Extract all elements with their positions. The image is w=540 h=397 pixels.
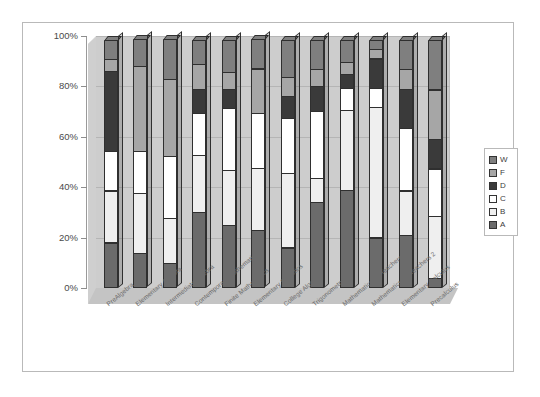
bar-segment-b[interactable] [222,170,236,225]
legend-swatch-w-icon [489,156,497,164]
legend-item-w[interactable]: W [489,153,514,166]
legend-item-c[interactable]: C [489,192,514,205]
legend-label: C [500,195,506,203]
legend-swatch-c-icon [489,195,497,203]
bar-segment-w[interactable] [428,40,442,90]
bar-segment-b[interactable] [310,178,324,203]
bar-segment-c[interactable] [222,108,236,171]
bar-segment-c[interactable] [251,113,265,168]
bar-side-face [324,32,329,288]
bar-segment-b[interactable] [340,110,354,191]
bar-side-face [206,32,211,288]
bar-segment-b[interactable] [104,191,118,244]
y-tick-mark [81,86,87,87]
bar-segment-f[interactable] [222,72,236,90]
bar-segment-f[interactable] [192,64,206,89]
bar-segment-w[interactable] [340,40,354,63]
bar-segment-d[interactable] [222,89,236,109]
stacked-bar[interactable] [281,41,295,288]
bar-side-face [118,32,123,288]
stacked-bar[interactable] [104,41,118,288]
y-tick-label: 100% [34,31,78,41]
bar-segment-d[interactable] [310,86,324,111]
stacked-bar[interactable] [340,41,354,288]
bar-segment-c[interactable] [399,128,413,191]
y-axis-line [86,36,87,289]
stacked-bar[interactable] [222,41,236,288]
legend-item-b[interactable]: B [489,205,514,218]
bar-segment-d[interactable] [428,139,442,169]
bar-segment-f[interactable] [163,79,177,157]
legend-swatch-b-icon [489,208,497,216]
bar-segment-b[interactable] [399,191,413,236]
y-tick-label: 80% [34,81,78,91]
bar-segment-b[interactable] [369,107,383,238]
bar-segment-d[interactable] [399,89,413,129]
bar-segment-w[interactable] [399,40,413,70]
y-tick-mark [81,137,87,138]
bar-segment-f[interactable] [281,77,295,97]
y-tick-mark [81,238,87,239]
bar-segment-d[interactable] [192,89,206,114]
bar-segment-c[interactable] [369,88,383,108]
bar-segment-d[interactable] [281,96,295,119]
y-tick-mark [81,187,87,188]
bar-side-face [295,32,300,288]
stacked-bar[interactable] [192,41,206,288]
bar-side-face [442,32,447,288]
legend-item-d[interactable]: D [489,179,514,192]
stacked-bar[interactable] [310,41,324,288]
stacked-bar[interactable] [369,41,383,288]
legend-swatch-d-icon [489,182,497,190]
bar-segment-w[interactable] [222,40,236,73]
bar-segment-d[interactable] [369,59,383,89]
bar-segment-w[interactable] [192,40,206,65]
legend-item-f[interactable]: F [489,166,514,179]
bar-segment-f[interactable] [399,69,413,89]
bar-segment-w[interactable] [133,39,147,67]
y-tick-mark [81,36,87,37]
bar-segment-c[interactable] [133,151,147,194]
bar-segment-c[interactable] [104,151,118,191]
bar-segment-a[interactable] [133,253,147,288]
legend-label: F [500,169,505,177]
bar-segment-c[interactable] [310,111,324,179]
bar-side-face [413,32,418,288]
bar-segment-w[interactable] [281,40,295,78]
bar-segment-c[interactable] [163,156,177,219]
bar-side-face [177,31,182,287]
bar-segment-a[interactable] [104,243,118,288]
bar-segment-d[interactable] [340,74,354,89]
bar-segment-f[interactable] [104,59,118,72]
stacked-bar[interactable] [133,40,147,288]
bar-segment-b[interactable] [281,173,295,249]
bar-segment-c[interactable] [428,169,442,217]
bar-segment-f[interactable] [428,90,442,140]
bar-segment-f[interactable] [133,66,147,152]
legend-label: B [500,208,505,216]
bar-segment-w[interactable] [251,39,265,69]
bar-segment-b[interactable] [163,218,177,263]
legend-item-a[interactable]: A [489,218,514,231]
y-tick-mark [81,288,87,289]
bar-segment-f[interactable] [340,62,354,75]
bar-side-face [354,32,359,288]
chart-page: 100%80%60%40%20%0% PreAlgebraElementary … [0,0,540,397]
bar-segment-f[interactable] [251,69,265,114]
y-tick-label: 60% [34,132,78,142]
bar-segment-b[interactable] [133,193,147,253]
legend-swatch-a-icon [489,221,497,229]
bar-segment-w[interactable] [163,39,177,79]
bar-segment-c[interactable] [192,113,206,156]
y-tick-label: 40% [34,182,78,192]
stacked-bar[interactable] [163,40,177,288]
bar-segment-f[interactable] [310,69,324,87]
bar-segment-c[interactable] [340,88,354,111]
bar-segment-a[interactable] [340,190,354,288]
bar-segment-w[interactable] [104,40,118,60]
bar-segment-d[interactable] [104,71,118,152]
bar-segment-b[interactable] [251,168,265,231]
bar-segment-w[interactable] [310,40,324,70]
bar-segment-b[interactable] [192,155,206,213]
bar-segment-c[interactable] [281,118,295,173]
